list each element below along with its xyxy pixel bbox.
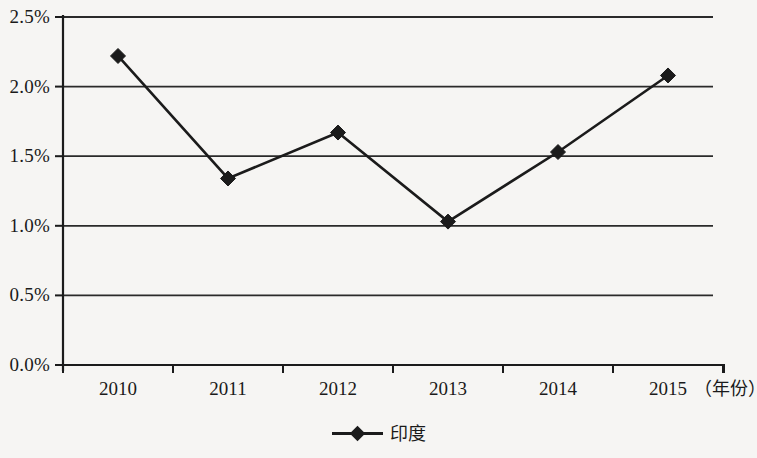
legend-line-icon [363,432,383,435]
legend-diamond-marker-icon [349,426,365,442]
x-axis-tick-label: 2013 [393,379,503,399]
legend-line-icon [332,432,352,435]
x-axis-tick-label: 2012 [283,379,393,399]
axis-lines [63,15,725,371]
x-axis-tick-label: 2010 [63,379,173,399]
x-axis-ticks [63,365,724,373]
series-india [111,48,676,229]
x-axis-unit-label: （年份） [694,379,757,399]
x-axis-tick-label: 2011 [173,379,283,399]
series-line [118,56,668,222]
y-axis-tick-label: 0.0% [0,355,50,374]
gridlines [63,17,713,295]
line-chart: 0.0%0.5%1.0%1.5%2.0%2.5% 201020112012201… [0,0,757,458]
x-axis-tick-label: 2014 [503,379,613,399]
y-axis-tick-label: 0.5% [0,285,50,304]
legend-entry-india: 印度 [332,423,426,445]
data-point-marker [661,68,676,83]
chart-legend: 印度 [0,418,757,445]
y-axis-tick-label: 1.5% [0,146,50,165]
y-axis-tick-label: 2.5% [0,7,50,26]
data-point-marker [551,145,566,160]
y-axis-tick-label: 2.0% [0,77,50,96]
y-axis-ticks [55,17,63,365]
legend-label-india: 印度 [390,423,426,445]
y-axis-tick-label: 1.0% [0,216,50,235]
